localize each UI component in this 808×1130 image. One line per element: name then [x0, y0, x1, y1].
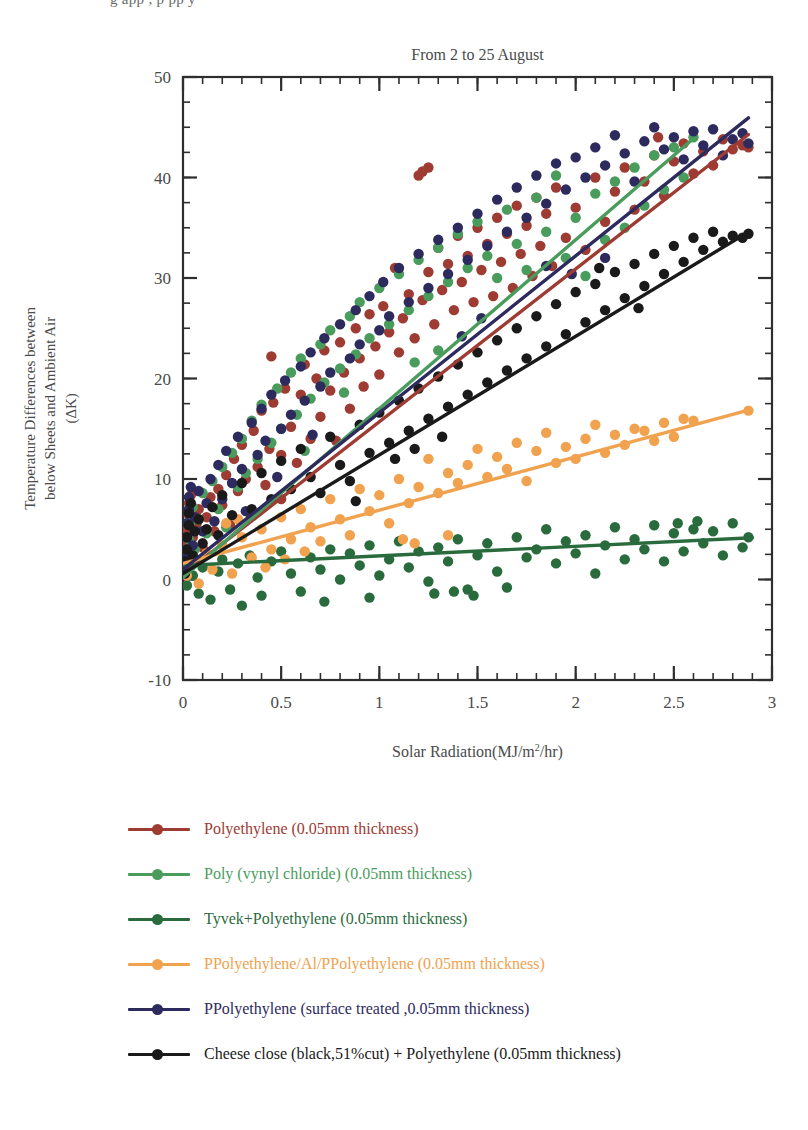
legend-label: PPolyethylene (surface treated ,0.05mm t…: [204, 1001, 529, 1017]
data-point: [443, 556, 453, 566]
data-point: [496, 257, 506, 267]
data-point: [639, 281, 649, 291]
data-point: [492, 273, 502, 283]
data-point: [688, 126, 698, 136]
data-point: [580, 317, 590, 327]
data-point: [659, 144, 669, 154]
data-point: [678, 546, 688, 556]
data-point: [225, 584, 235, 594]
data-point: [531, 170, 541, 180]
data-point: [256, 403, 266, 413]
data-point: [335, 363, 345, 373]
data-point: [300, 546, 310, 556]
data-point: [482, 251, 492, 261]
data-point: [449, 586, 459, 596]
data-point: [669, 241, 679, 251]
data-point: [409, 357, 419, 367]
data-point: [649, 150, 659, 160]
y-tick-label: 40: [154, 169, 171, 188]
data-point: [409, 444, 419, 454]
legend-item-3[interactable]: PPolyethylene/Al/PPolyethylene (0.05mm t…: [128, 951, 545, 977]
data-point: [512, 200, 522, 210]
data-point: [600, 160, 610, 170]
data-point: [561, 233, 571, 243]
data-point: [227, 478, 237, 488]
data-point: [453, 534, 463, 544]
data-point: [351, 305, 361, 315]
legend-item-5[interactable]: Cheese close (black,51%cut) + Polyethyle…: [128, 1041, 621, 1067]
data-point: [237, 478, 247, 488]
data-point: [325, 367, 335, 377]
data-point: [610, 186, 620, 196]
data-point: [205, 474, 215, 484]
legend-item-2[interactable]: Tyvek+Polyethylene (0.05mm thickness): [128, 906, 467, 932]
data-point: [237, 464, 247, 474]
data-point: [266, 544, 276, 554]
data-point: [570, 152, 580, 162]
data-point: [260, 562, 270, 572]
x-tick-label: 2: [571, 693, 580, 712]
data-point: [374, 570, 384, 580]
plot-series-group: [180, 118, 754, 611]
data-point: [296, 361, 306, 371]
data-point: [551, 158, 561, 168]
data-point: [541, 227, 551, 237]
data-point: [669, 132, 679, 142]
data-point: [580, 434, 590, 444]
legend-item-0[interactable]: Polyethylene (0.05mm thickness): [128, 816, 419, 842]
data-point: [190, 526, 200, 536]
data-point: [472, 444, 482, 454]
data-point: [364, 309, 374, 319]
y-tick-label: 50: [154, 68, 171, 87]
x-tick-label: 1: [375, 693, 384, 712]
data-point: [194, 486, 204, 496]
data-point: [659, 418, 669, 428]
data-point: [590, 568, 600, 578]
data-point: [502, 204, 512, 214]
legend-swatch-icon: [128, 1001, 190, 1017]
data-point: [252, 572, 262, 582]
data-point: [590, 142, 600, 152]
plot-canvas: 00.511.522.53-1001020304050: [0, 0, 808, 790]
data-point: [502, 464, 512, 474]
data-point: [531, 311, 541, 321]
data-point: [570, 287, 580, 297]
data-point: [296, 586, 306, 596]
data-point: [620, 148, 630, 158]
data-point: [335, 460, 345, 470]
data-point: [374, 490, 384, 500]
data-point: [649, 249, 659, 259]
data-point: [633, 303, 643, 313]
data-point: [512, 438, 522, 448]
data-point: [688, 233, 698, 243]
data-point: [351, 323, 361, 333]
data-point: [570, 213, 580, 223]
axis-tick-labels: 00.511.522.53-1001020304050: [148, 68, 776, 712]
data-point: [227, 568, 237, 578]
data-point: [247, 418, 257, 428]
data-point: [345, 353, 355, 363]
data-point: [728, 518, 738, 528]
data-point: [698, 245, 708, 255]
data-point: [629, 162, 639, 172]
data-point: [590, 188, 600, 198]
y-tick-label: 20: [154, 370, 171, 389]
data-point: [541, 208, 551, 218]
data-point: [280, 375, 290, 385]
data-point: [512, 182, 522, 192]
data-point: [315, 564, 325, 574]
data-point: [521, 552, 531, 562]
data-point: [260, 436, 270, 446]
data-point: [610, 176, 620, 186]
data-point: [423, 576, 433, 586]
data-point: [531, 446, 541, 456]
data-point: [570, 202, 580, 212]
legend-label: Polyethylene (0.05mm thickness): [204, 821, 419, 837]
data-point: [561, 184, 571, 194]
data-point: [186, 498, 196, 508]
legend-item-4[interactable]: PPolyethylene (surface treated ,0.05mm t…: [128, 996, 529, 1022]
data-point: [315, 536, 325, 546]
legend-item-1[interactable]: Poly (vynyl chloride) (0.05mm thickness): [128, 861, 472, 887]
data-point: [551, 170, 561, 180]
data-point: [221, 446, 231, 456]
